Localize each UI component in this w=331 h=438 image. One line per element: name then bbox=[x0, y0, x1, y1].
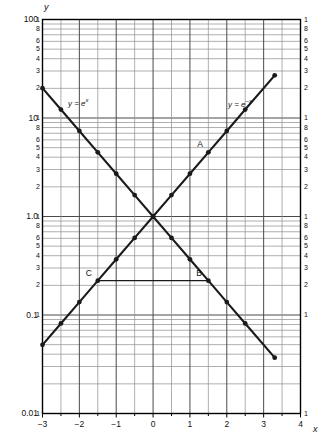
y-minor-label-right: 8 bbox=[304, 124, 308, 131]
y-minor-label-left: 8 bbox=[36, 222, 40, 229]
y-minor-label-left: 6 bbox=[36, 37, 40, 44]
y-minor-label-right: 8 bbox=[304, 25, 308, 32]
y-minor-label-right: 2 bbox=[304, 84, 308, 91]
y-minor-label-right: 1 bbox=[304, 410, 308, 417]
x-tick-label-0: −3 bbox=[38, 419, 48, 429]
y-minor-label-left: 2 bbox=[36, 183, 40, 190]
y-minor-label-left: 1 bbox=[36, 410, 40, 417]
y-minor-label-right: 6 bbox=[304, 136, 308, 143]
y-minor-label-right: 8 bbox=[304, 222, 308, 229]
y-minor-label-left: 3 bbox=[36, 264, 40, 271]
y-minor-label-right: 1 bbox=[304, 213, 308, 220]
y-minor-label-right: 3 bbox=[304, 264, 308, 271]
chart-canvas bbox=[0, 0, 331, 438]
y-minor-label-left: 8 bbox=[36, 124, 40, 131]
y-minor-label-right: 6 bbox=[304, 37, 308, 44]
y-decade-label-0-01: 0.01 bbox=[0, 409, 38, 418]
x-tick-label-1: −2 bbox=[74, 419, 84, 429]
y-minor-label-right: 1 bbox=[304, 114, 308, 121]
y-minor-label-left: 3 bbox=[36, 166, 40, 173]
y-minor-label-left: 1 bbox=[36, 114, 40, 121]
y-decade-label-0-1: 0.1 bbox=[0, 311, 38, 320]
y-minor-label-left: 1 bbox=[36, 311, 40, 318]
y-minor-label-right: 4 bbox=[304, 153, 308, 160]
point-label-c: C bbox=[86, 268, 92, 278]
y-decade-label-100: 100 bbox=[0, 15, 38, 24]
y-minor-label-left: 1 bbox=[36, 213, 40, 220]
y-minor-label-left: 5 bbox=[36, 242, 40, 249]
point-label-a: A bbox=[197, 139, 203, 149]
y-decade-label-1-0: 1.0 bbox=[0, 212, 38, 221]
point-label-b: B bbox=[196, 268, 202, 278]
y-minor-label-left: 5 bbox=[36, 45, 40, 52]
y-minor-label-left: 4 bbox=[36, 252, 40, 259]
y-minor-label-right: 5 bbox=[304, 144, 308, 151]
y-minor-label-right: 4 bbox=[304, 252, 308, 259]
y-minor-label-left: 2 bbox=[36, 84, 40, 91]
y-minor-label-right: 4 bbox=[304, 55, 308, 62]
curve-label-exp-x: y = ex bbox=[68, 97, 89, 108]
y-minor-label-right: 1 bbox=[304, 16, 308, 23]
x-tick-label-3: 0 bbox=[151, 419, 156, 429]
y-minor-label-right: 2 bbox=[304, 183, 308, 190]
curve-label-exp-neg-x: y = e−x bbox=[228, 98, 252, 109]
y-axis-label: y bbox=[44, 2, 49, 12]
y-minor-label-left: 5 bbox=[36, 144, 40, 151]
x-tick-label-5: 2 bbox=[224, 419, 229, 429]
y-minor-label-left: 6 bbox=[36, 234, 40, 241]
y-minor-label-left: 2 bbox=[36, 281, 40, 288]
y-minor-label-right: 5 bbox=[304, 242, 308, 249]
y-minor-label-left: 4 bbox=[36, 153, 40, 160]
x-tick-label-2: −1 bbox=[111, 419, 121, 429]
y-minor-label-left: 3 bbox=[36, 67, 40, 74]
y-minor-label-left: 4 bbox=[36, 55, 40, 62]
x-tick-label-7: 4 bbox=[298, 419, 303, 429]
y-minor-label-right: 3 bbox=[304, 166, 308, 173]
y-minor-label-right: 3 bbox=[304, 67, 308, 74]
y-decade-label-10: 10 bbox=[0, 114, 38, 123]
semilog-chart: y x 100101.00.10.01 11865432186543218654… bbox=[0, 0, 331, 438]
y-minor-label-left: 8 bbox=[36, 25, 40, 32]
x-tick-label-6: 3 bbox=[261, 419, 266, 429]
x-tick-label-4: 1 bbox=[188, 419, 193, 429]
x-axis-label: x bbox=[313, 424, 318, 434]
y-minor-label-left: 6 bbox=[36, 136, 40, 143]
y-minor-label-right: 6 bbox=[304, 234, 308, 241]
y-minor-label-right: 5 bbox=[304, 45, 308, 52]
y-minor-label-left: 1 bbox=[36, 16, 40, 23]
y-minor-label-right: 1 bbox=[304, 311, 308, 318]
y-minor-label-right: 2 bbox=[304, 281, 308, 288]
